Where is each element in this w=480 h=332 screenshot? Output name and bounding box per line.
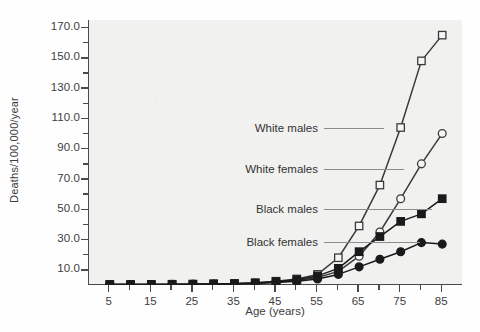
- y-tick-minor-140: [83, 72, 88, 73]
- y-tick-minor-60: [83, 193, 88, 194]
- y-tick-major-50: [81, 209, 88, 210]
- x-tick-label-75: 75: [380, 295, 420, 307]
- x-tick-major-5: [108, 285, 109, 292]
- series-leader-line-black-males: [324, 209, 432, 210]
- y-axis-title: Deaths/100,000/year: [8, 97, 20, 203]
- x-tick-major-85: [441, 285, 442, 292]
- x-axis-title: Age (years): [245, 305, 304, 317]
- series-label-black-females: Black females: [180, 236, 318, 248]
- y-tick-minor-100: [83, 133, 88, 134]
- x-tick-minor-20: [170, 285, 171, 290]
- x-tick-minor-60: [337, 285, 338, 290]
- x-tick-minor-30: [212, 285, 213, 290]
- x-tick-minor-80: [420, 285, 421, 290]
- y-tick-minor-20: [83, 254, 88, 255]
- y-tick-label-130: 130.0: [30, 81, 80, 93]
- y-tick-major-30: [81, 239, 88, 240]
- y-tick-major-70: [81, 178, 88, 179]
- chart-figure: 10.030.050.070.090.0110.0130.0150.0170.0…: [0, 0, 480, 332]
- y-tick-label-30: 30.0: [30, 232, 80, 244]
- series-leader-line-black-females: [324, 242, 420, 243]
- x-tick-major-65: [357, 285, 358, 292]
- x-tick-label-85: 85: [421, 295, 461, 307]
- x-tick-minor-40: [254, 285, 255, 290]
- x-tick-label-5: 5: [89, 295, 129, 307]
- x-tick-major-25: [191, 285, 192, 292]
- y-tick-major-110: [81, 118, 88, 119]
- x-tick-minor-70: [378, 285, 379, 290]
- y-tick-minor-120: [83, 103, 88, 104]
- x-tick-label-65: 65: [338, 295, 378, 307]
- y-tick-minor-80: [83, 163, 88, 164]
- series-label-white-females: White females: [180, 163, 318, 175]
- y-tick-major-150: [81, 57, 88, 58]
- y-tick-label-70: 70.0: [30, 172, 80, 184]
- y-tick-label-110: 110.0: [30, 111, 80, 123]
- series-label-white-males: White males: [180, 122, 318, 134]
- x-tick-major-75: [399, 285, 400, 292]
- y-tick-label-10: 10.0: [30, 262, 80, 274]
- series-leader-line-white-males: [324, 128, 384, 129]
- x-tick-label-25: 25: [172, 295, 212, 307]
- y-tick-label-90: 90.0: [30, 141, 80, 153]
- y-tick-minor-40: [83, 224, 88, 225]
- y-tick-label-170: 170.0: [30, 20, 80, 32]
- y-tick-minor-160: [83, 42, 88, 43]
- series-label-black-males: Black males: [180, 203, 318, 215]
- series-leader-line-white-females: [324, 169, 404, 170]
- y-tick-label-150: 150.0: [30, 50, 80, 62]
- x-tick-major-15: [150, 285, 151, 292]
- y-tick-major-170: [81, 27, 88, 28]
- x-tick-major-55: [316, 285, 317, 292]
- y-tick-major-130: [81, 87, 88, 88]
- x-tick-minor-10: [129, 285, 130, 290]
- y-tick-label-50: 50.0: [30, 202, 80, 214]
- x-tick-minor-50: [295, 285, 296, 290]
- x-tick-major-35: [233, 285, 234, 292]
- x-tick-label-15: 15: [130, 295, 170, 307]
- y-tick-major-10: [81, 269, 88, 270]
- y-tick-major-90: [81, 148, 88, 149]
- x-tick-major-45: [274, 285, 275, 292]
